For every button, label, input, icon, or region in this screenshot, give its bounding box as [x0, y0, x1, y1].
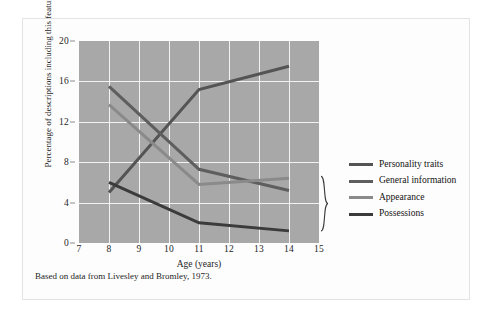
y-tick-mark	[70, 243, 75, 244]
series-lines	[79, 41, 319, 243]
legend-item[interactable]: Possessions	[349, 209, 469, 220]
legend-label: Appearance	[379, 193, 424, 203]
figure-caption: Based on data from Livesley and Bromley,…	[35, 271, 212, 281]
y-tick-label: 16	[59, 76, 69, 86]
x-tick-label: 7	[77, 244, 82, 254]
y-tick-mark	[70, 162, 75, 163]
legend-item[interactable]: Appearance	[349, 192, 469, 203]
legend-swatch-icon	[349, 180, 373, 183]
range-brace-icon	[319, 41, 333, 243]
legend-label: General information	[379, 176, 456, 186]
x-tick-label: 9	[137, 244, 142, 254]
x-tick-label: 11	[194, 244, 204, 254]
x-tick-label: 12	[224, 244, 234, 254]
legend-swatch-icon	[349, 196, 373, 199]
y-tick-label: 8	[64, 157, 69, 167]
y-tick-label: 4	[64, 198, 69, 208]
x-tick-label: 13	[254, 244, 264, 254]
brace-path	[321, 176, 328, 231]
legend-swatch-icon	[349, 213, 373, 216]
legend-swatch-icon	[349, 163, 373, 166]
y-axis-title: Percentage of descriptions including thi…	[43, 0, 54, 169]
y-tick-label: 0	[64, 238, 69, 248]
legend-label: Personality traits	[379, 160, 443, 170]
plot-area	[79, 41, 319, 243]
figure-card: 048121620 Percentage of descriptions inc…	[22, 18, 470, 300]
y-tick-mark	[70, 81, 75, 82]
y-tick-label: 20	[59, 36, 69, 46]
legend: Personality traitsGeneral informationApp…	[349, 159, 469, 225]
legend-item[interactable]: Personality traits	[349, 159, 469, 170]
x-tick-label: 8	[107, 244, 112, 254]
series-line	[109, 86, 289, 190]
legend-label: Possessions	[379, 209, 424, 219]
series-line	[109, 182, 289, 230]
y-tick-label: 12	[59, 117, 69, 127]
y-tick-mark	[70, 121, 75, 122]
x-tick-label: 10	[164, 244, 174, 254]
x-axis: 789101112131415	[79, 243, 319, 259]
legend-item[interactable]: General information	[349, 176, 469, 187]
series-line	[109, 105, 289, 185]
x-tick-label: 14	[284, 244, 294, 254]
y-tick-mark	[70, 41, 75, 42]
x-axis-title: Age (years)	[79, 259, 319, 269]
y-tick-mark	[70, 202, 75, 203]
x-tick-label: 15	[314, 244, 324, 254]
